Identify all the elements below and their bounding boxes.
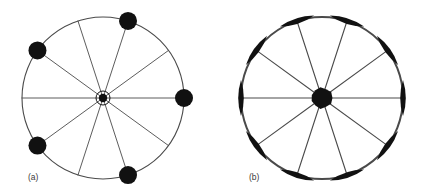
rim-disc-288deg <box>119 166 137 184</box>
panel-b-label: (b) <box>249 172 260 182</box>
rim-disc-216deg <box>28 137 46 155</box>
wheel-diagram-figure: (a) (b) <box>0 0 427 196</box>
hub-core <box>99 94 107 102</box>
rim-disc-0deg <box>175 89 193 107</box>
panel-a-label: (a) <box>28 172 39 182</box>
rim-disc-144deg <box>28 41 46 59</box>
rim-disc-72deg <box>119 12 137 30</box>
